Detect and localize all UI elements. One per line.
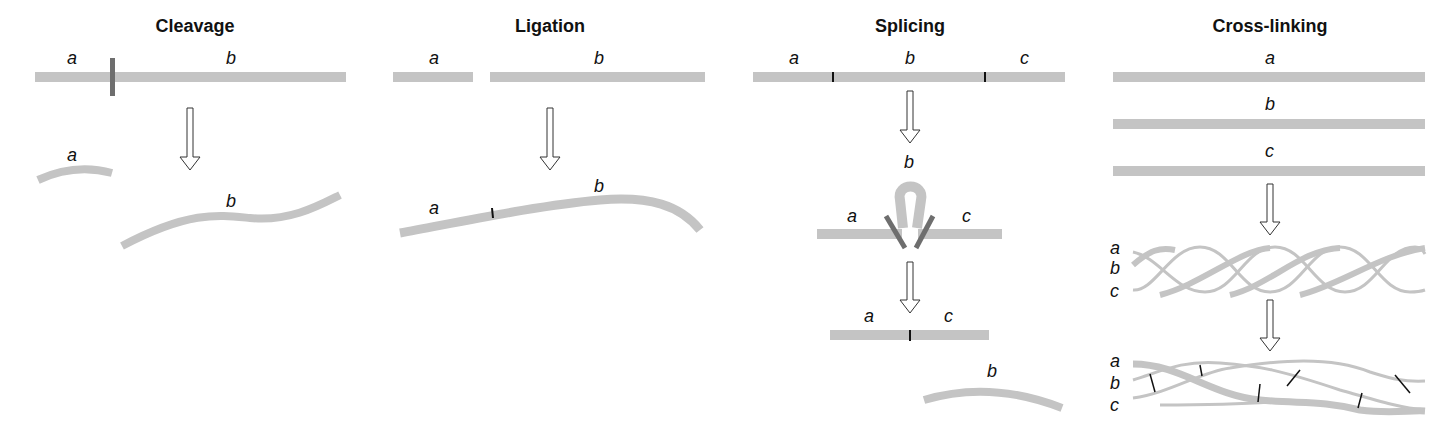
label-b-fragment: b: [226, 191, 236, 211]
label-b-crosslinked: b: [1110, 373, 1120, 393]
label-b: b: [1265, 94, 1275, 114]
label-b-helix: b: [1110, 258, 1120, 278]
label-b: b: [905, 48, 915, 68]
ligated-strand-ab: [400, 199, 700, 233]
label-b-joined: b: [594, 176, 604, 196]
cleavage-diagram: a b a b: [0, 0, 370, 428]
down-arrow-icon: [900, 91, 920, 143]
panel-cross-linking: Cross-linking a b c a b c a b c: [1100, 0, 1451, 428]
label-a: a: [789, 48, 799, 68]
down-arrow-icon: [180, 108, 200, 170]
label-a-bottom: a: [864, 306, 874, 326]
label-a-fragment: a: [67, 145, 77, 165]
label-a-helix: a: [1110, 238, 1120, 258]
label-c-crosslinked: c: [1110, 395, 1119, 415]
intron-loop-b: [900, 187, 922, 229]
label-a-mid: a: [847, 206, 857, 226]
label-c-mid: c: [962, 206, 971, 226]
label-c: c: [1020, 48, 1029, 68]
panel-splicing: Splicing a b c b a c a c b: [740, 0, 1080, 428]
splicing-diagram: a b c b a c a c b: [740, 0, 1080, 428]
triple-helix: [1133, 247, 1425, 295]
down-arrow-icon: [540, 108, 560, 170]
label-a-joined: a: [429, 198, 439, 218]
label-c-helix: c: [1110, 281, 1119, 301]
down-arrow-icon: [1260, 184, 1280, 235]
down-arrow-icon: [1260, 300, 1280, 351]
label-a: a: [67, 48, 77, 68]
label-a: a: [1265, 48, 1275, 68]
label-b-excised: b: [987, 361, 997, 381]
ligation-diagram: a b a b: [380, 0, 720, 428]
label-a: a: [429, 48, 439, 68]
fragment-a: [38, 169, 112, 180]
label-a-crosslinked: a: [1110, 351, 1120, 371]
cross-linking-diagram: a b c a b c a b c: [1100, 0, 1451, 428]
down-arrow-icon: [900, 262, 920, 313]
label-c-bottom: c: [944, 306, 953, 326]
cross-linked-helix: [1133, 361, 1425, 412]
panel-cleavage: Cleavage a b a b: [0, 0, 370, 428]
panel-ligation: Ligation a b a b: [380, 0, 720, 428]
label-b-loop: b: [904, 152, 914, 172]
label-b: b: [226, 48, 236, 68]
label-c: c: [1265, 141, 1274, 161]
excised-intron-b: [924, 392, 1062, 408]
cleavage-site-marker: [110, 58, 115, 96]
ligation-junction: [492, 208, 493, 218]
label-b: b: [594, 48, 604, 68]
